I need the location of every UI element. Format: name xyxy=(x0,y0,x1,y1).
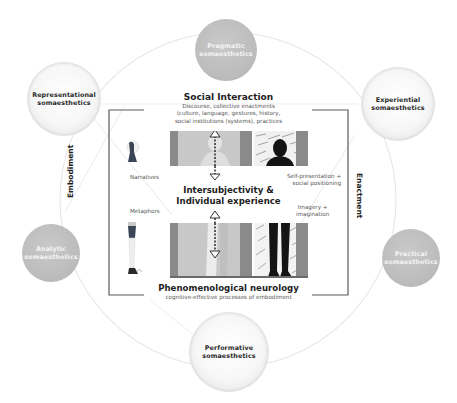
center-line: Intersubjectivity & xyxy=(183,185,274,195)
phenomenological-neurology-subtitle: cognitive-effective processes of embodim… xyxy=(0,294,457,301)
node-label: somaesthetics xyxy=(202,352,255,360)
social-interaction-description: Discourse, collective enactments (cultur… xyxy=(0,103,457,125)
axis-text: Enactment xyxy=(355,173,364,218)
node-pragmatic: Pragmaticsomaesthetics xyxy=(195,19,257,81)
label-line: social positioning xyxy=(293,180,342,186)
center-line: Individual experience xyxy=(176,196,280,206)
leg-figure-icon xyxy=(125,222,145,276)
lower-image-panel xyxy=(170,223,308,278)
arrow-down-icon xyxy=(210,174,220,180)
self-presentation-label: Self-presentation + social positioning xyxy=(287,173,341,188)
node-label: somaesthetics xyxy=(24,253,77,261)
node-analytic: Analyticsomaesthetics xyxy=(22,224,80,282)
label-line: Self-presentation + xyxy=(287,173,341,179)
node-performative: Performativesomaesthetics xyxy=(189,312,269,392)
upper-image-panel xyxy=(170,131,308,166)
node-label: somaesthetics xyxy=(384,258,437,266)
node-label: somaesthetics xyxy=(199,50,252,58)
embodiment-axis-label: Embodiment xyxy=(66,145,75,198)
node-label: Analytic xyxy=(36,245,66,253)
enactment-axis-label: Enactment xyxy=(355,173,364,218)
description-line: Discourse, collective enactments xyxy=(182,103,275,109)
metaphors-label: Metaphors xyxy=(130,208,160,215)
description-line: (culture, language, gestures, history, xyxy=(177,110,281,116)
node-label: Pragmatic xyxy=(207,42,245,50)
label-line: Imagery + xyxy=(298,204,328,210)
arrow-up-icon xyxy=(210,211,220,218)
imagery-label: Imagery + imagination xyxy=(296,204,329,219)
phenomenological-neurology-title: Phenomenological neurology xyxy=(0,283,457,293)
axis-text: Embodiment xyxy=(66,145,75,198)
silhouette-icon xyxy=(273,139,287,157)
node-label: Practical xyxy=(395,250,427,258)
node-practical: Practicalsomaesthetics xyxy=(382,229,440,287)
head-figure-icon xyxy=(124,140,140,164)
label-line: imagination xyxy=(296,211,329,217)
narratives-label: Narratives xyxy=(130,174,159,181)
description-line: social institutions (systems), practices xyxy=(175,118,282,124)
social-interaction-title: Social Interaction xyxy=(0,92,457,102)
node-label: Performative xyxy=(205,344,253,352)
